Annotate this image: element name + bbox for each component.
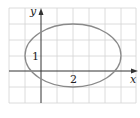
coordinate-plot: y x 1 2 <box>0 0 140 118</box>
y-axis-arrow-icon <box>39 8 44 15</box>
grid <box>9 8 136 103</box>
x-axis-label: x <box>130 73 137 86</box>
x-tick-label: 2 <box>70 73 77 86</box>
y-axis-label: y <box>29 5 37 18</box>
y-tick-label: 1 <box>32 50 39 63</box>
axes <box>9 12 134 103</box>
